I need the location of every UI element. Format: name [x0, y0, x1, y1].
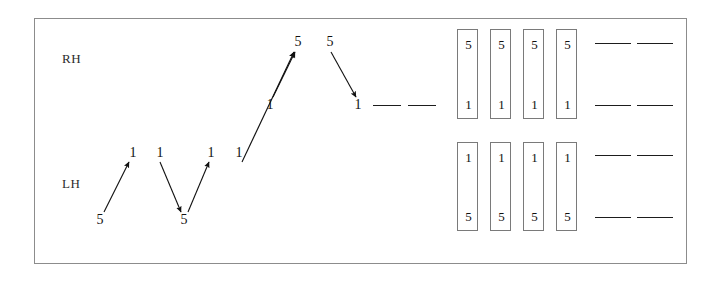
bottom-row-box: 15	[556, 142, 577, 231]
fingering-diagram-figure: RH LH 511511 1551 5151515115151515	[0, 0, 722, 283]
left-hand-digit: 1	[130, 146, 137, 160]
bottom-row-box-top-digit: 1	[564, 151, 571, 164]
right-dash	[595, 155, 631, 156]
top-row-box-bottom-digit: 1	[498, 98, 505, 111]
top-row-box: 51	[457, 29, 478, 119]
left-hand-digit: 5	[97, 213, 104, 227]
top-row-box-bottom-digit: 1	[465, 98, 472, 111]
right-dash	[637, 105, 673, 106]
right-hand-label: RH	[62, 51, 81, 67]
middle-dash	[373, 105, 401, 106]
bottom-row-box: 15	[523, 142, 544, 231]
bottom-row-box-bottom-digit: 5	[498, 210, 505, 223]
bottom-row-box-bottom-digit: 5	[465, 210, 472, 223]
right-dash	[595, 105, 631, 106]
bottom-row-box-top-digit: 1	[465, 151, 472, 164]
diagram-frame	[34, 18, 687, 264]
right-dash	[637, 43, 673, 44]
top-row-box-bottom-digit: 1	[564, 98, 571, 111]
right-dash	[595, 43, 631, 44]
left-hand-digit: 1	[236, 146, 243, 160]
right-dash	[637, 217, 673, 218]
left-hand-digit: 5	[181, 213, 188, 227]
top-row-box: 51	[556, 29, 577, 119]
bottom-row-box-top-digit: 1	[531, 151, 538, 164]
right-hand-digit: 1	[267, 98, 274, 112]
bottom-row-box-bottom-digit: 5	[531, 210, 538, 223]
right-hand-digit: 5	[327, 35, 334, 49]
bottom-row-box: 15	[457, 142, 478, 231]
middle-dash	[408, 105, 436, 106]
bottom-row-box-bottom-digit: 5	[564, 210, 571, 223]
top-row-box-top-digit: 5	[465, 38, 472, 51]
left-hand-digit: 1	[157, 146, 164, 160]
right-hand-digit: 1	[355, 98, 362, 112]
top-row-box-top-digit: 5	[564, 38, 571, 51]
left-hand-digit: 1	[208, 146, 215, 160]
right-dash	[637, 155, 673, 156]
bottom-row-box: 15	[490, 142, 511, 231]
top-row-box-top-digit: 5	[531, 38, 538, 51]
bottom-row-box-top-digit: 1	[498, 151, 505, 164]
left-hand-label: LH	[62, 176, 80, 192]
top-row-box-top-digit: 5	[498, 38, 505, 51]
top-row-box: 51	[523, 29, 544, 119]
top-row-box: 51	[490, 29, 511, 119]
right-dash	[595, 217, 631, 218]
top-row-box-bottom-digit: 1	[531, 98, 538, 111]
right-hand-digit: 5	[295, 35, 302, 49]
